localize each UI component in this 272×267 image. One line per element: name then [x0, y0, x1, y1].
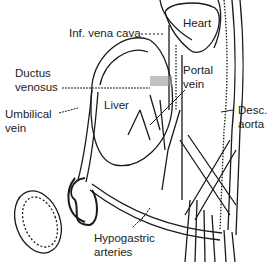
placenta-shape	[6, 184, 69, 259]
label-liver: Liver	[104, 99, 129, 112]
label-inf-vena-cava: Inf. vena cava	[69, 27, 141, 40]
label-ductus-venosus-1: Ductus	[15, 67, 51, 80]
fetal-circulation-drawing	[0, 0, 272, 267]
label-desc-aorta-1: Desc.	[238, 104, 267, 117]
label-ductus-venosus-2: venosus	[15, 81, 58, 94]
label-umbilical-vein-2: vein	[5, 122, 26, 135]
label-heart: Heart	[183, 17, 211, 30]
label-umbilical-vein-1: Umbilical	[5, 108, 52, 121]
label-hypogastric-arteries-1: Hypogastric	[94, 232, 155, 245]
label-hypogastric-arteries-2: arteries	[94, 246, 132, 259]
label-portal-vein-1: Portal	[183, 64, 213, 77]
label-portal-vein-2: vein	[183, 78, 204, 91]
label-desc-aorta-2: aorta	[238, 118, 264, 131]
